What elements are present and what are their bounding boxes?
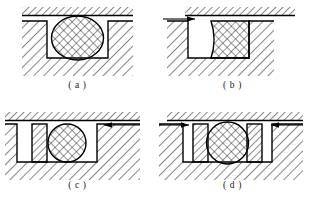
mating-surface-hatch [167,112,303,120]
panel-b-caption: ( b ) [155,80,310,90]
backup-ring-right-fill [247,124,262,162]
extruded-seal-fill [211,21,249,58]
panel-a: ( a ) [0,0,155,100]
panel-d-caption: ( d ) [155,180,310,190]
panel-a-caption: ( a ) [0,80,155,90]
mating-surface-hatch [5,112,140,120]
backup-ring-left-fill [193,124,208,162]
mating-surface-hatch [185,7,295,15]
panel-c-caption: ( c ) [0,180,155,190]
mating-surface-hatch [22,7,133,15]
panel-d: ( d ) [155,100,310,200]
backup-ring-left-fill [32,124,47,162]
seal-configuration-figure: ( a ) [0,0,310,200]
panel-c: ( c ) [0,100,155,200]
panel-b: ( b ) [155,0,310,100]
